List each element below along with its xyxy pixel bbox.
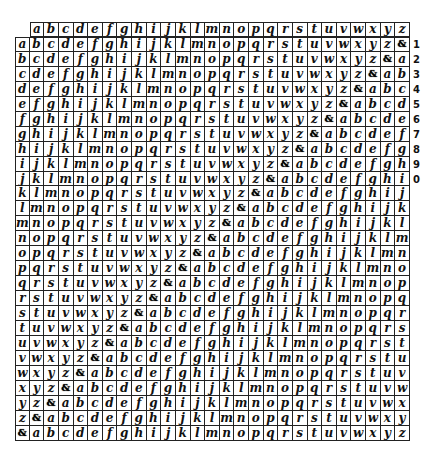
table-cell: q	[88, 201, 103, 216]
table-cell: a	[264, 186, 279, 201]
table-cell: d	[351, 142, 366, 157]
table-cell: e	[205, 306, 220, 321]
table-cell: x	[103, 291, 118, 306]
row-label-cell: b	[15, 52, 30, 67]
row-label-cell: w	[15, 366, 30, 381]
table-cell: b	[308, 157, 323, 172]
table-cell: l	[147, 67, 162, 82]
table-cell: b	[103, 366, 118, 381]
table-cell: r	[103, 201, 118, 216]
table-cell: e	[147, 366, 162, 381]
table-cell: w	[366, 411, 381, 426]
header-cell: d	[74, 22, 89, 37]
table-cell: v	[308, 52, 323, 67]
table-row: cdefghijklmnopqrstuvwxyz&ab	[15, 67, 410, 82]
header-cell: x	[366, 22, 381, 37]
table-cell: o	[117, 142, 132, 157]
table-cell: z	[88, 336, 103, 351]
table-cell: &	[366, 67, 381, 82]
table-cell: v	[191, 172, 206, 187]
table-cell: w	[30, 351, 45, 366]
table-cell: y	[30, 381, 45, 396]
table-cell: y	[366, 37, 381, 52]
table-cell: a	[147, 306, 162, 321]
table-cell: z	[74, 351, 89, 366]
table-cell: u	[132, 216, 147, 231]
table-cell: d	[30, 67, 45, 82]
table-cell: h	[30, 127, 45, 142]
table-cell: z	[322, 97, 337, 112]
table-cell: f	[44, 82, 59, 97]
table-cell: i	[205, 366, 220, 381]
table-cell: y	[234, 172, 249, 187]
table-cell: h	[234, 321, 249, 336]
table-cell: s	[278, 37, 293, 52]
table-cell: b	[220, 246, 235, 261]
table-cell: l	[191, 426, 206, 441]
table-cell: z	[308, 112, 323, 127]
table-row: abcdefghijklmnopqrstuvwxyz&	[15, 37, 410, 52]
table-cell: u	[205, 142, 220, 157]
table-cell: l	[351, 261, 366, 276]
table-cell: n	[59, 186, 74, 201]
table-cell: c	[220, 261, 235, 276]
table-cell: l	[220, 396, 235, 411]
table-cell: h	[337, 216, 352, 231]
table-cell: p	[191, 82, 206, 97]
table-cell: e	[264, 246, 279, 261]
header-cell: z	[395, 22, 410, 37]
table-cell: &	[234, 201, 249, 216]
table-cell: u	[88, 261, 103, 276]
table-cell: l	[337, 276, 352, 291]
table-cell: f	[132, 396, 147, 411]
table-cell: c	[366, 112, 381, 127]
table-cell: c	[44, 37, 59, 52]
table-cell: c	[278, 201, 293, 216]
table-cell: u	[264, 82, 279, 97]
table-cell: m	[278, 351, 293, 366]
table-cell: n	[74, 172, 89, 187]
table-cell: z	[103, 321, 118, 336]
table-cell: u	[337, 411, 352, 426]
row-label-cell: q	[15, 276, 30, 291]
table-cell: g	[337, 201, 352, 216]
table-cell: t	[191, 142, 206, 157]
table-row: yz&abcdefghijklmnopqrstuvwx	[15, 396, 410, 411]
header-cell: o	[234, 22, 249, 37]
row-label-cell: n	[15, 231, 30, 246]
table-cell: m	[366, 261, 381, 276]
table-cell: y	[88, 321, 103, 336]
table-cell: i	[381, 186, 396, 201]
table-cell: n	[220, 426, 235, 441]
row-label-cell: g	[15, 127, 30, 142]
table-cell: z	[278, 142, 293, 157]
table-cell: y	[191, 216, 206, 231]
table-cell: g	[161, 381, 176, 396]
table-cell: x	[278, 112, 293, 127]
table-cell: m	[308, 321, 323, 336]
table-row: &abcdefghijklmnopqrstuvwxyz	[15, 426, 410, 441]
row-label-cell: j	[15, 172, 30, 187]
table-cell: v	[176, 186, 191, 201]
table-cell: i	[249, 321, 264, 336]
table-cell: t	[59, 276, 74, 291]
table-cell: q	[191, 97, 206, 112]
table-row: qrstuvwxyz&abcdefghijklmnop	[15, 276, 410, 291]
row-number: 1	[413, 37, 420, 52]
table-cell: o	[132, 127, 147, 142]
table-cell: f	[220, 306, 235, 321]
table-cell: k	[366, 231, 381, 246]
header-cell: r	[278, 22, 293, 37]
table-cell: d	[220, 276, 235, 291]
row-label-cell: f	[15, 112, 30, 127]
table-cell: v	[132, 231, 147, 246]
table-cell: s	[117, 201, 132, 216]
header-cell: p	[249, 22, 264, 37]
table-cell: s	[30, 291, 45, 306]
table-cell: g	[44, 97, 59, 112]
table-cell: f	[308, 216, 323, 231]
table-cell: k	[308, 291, 323, 306]
row-label-cell: z	[15, 411, 30, 426]
table-row: ijklmnopqrstuvwxyz&abcdefgh	[15, 157, 410, 172]
cipher-table: abcdefghijklmnopqrstuvwxyz abcdefghijklm…	[15, 22, 410, 441]
